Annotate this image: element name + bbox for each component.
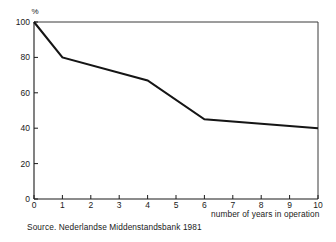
x-tick-label-1: 1 — [60, 200, 65, 210]
x-tick-label-6: 6 — [202, 200, 207, 210]
data-series-line — [34, 22, 318, 128]
y-tick-label-0: 0 — [25, 194, 30, 204]
y-tick-label-80: 80 — [21, 52, 31, 62]
x-tick-marks — [34, 195, 318, 199]
y-axis-unit-label: % — [31, 7, 38, 16]
chart-svg: 0 20 40 60 80 100 % 0 — [0, 0, 336, 242]
line-chart: 0 20 40 60 80 100 % 0 — [0, 0, 336, 242]
x-axis-title: number of years in operation — [211, 209, 319, 219]
x-tick-label-2: 2 — [88, 200, 93, 210]
y-tick-label-40: 40 — [21, 123, 31, 133]
y-tick-label-60: 60 — [21, 88, 31, 98]
x-tick-label-5: 5 — [174, 200, 179, 210]
chart-page: 0 20 40 60 80 100 % 0 — [0, 0, 336, 242]
source-note: Source. Nederlandse Middenstandsbank 198… — [27, 222, 202, 232]
x-tick-label-4: 4 — [145, 200, 150, 210]
x-tick-label-0: 0 — [32, 200, 37, 210]
y-tick-marks — [34, 22, 38, 199]
y-tick-label-20: 20 — [21, 159, 31, 169]
plot-frame — [34, 22, 318, 199]
y-tick-label-100: 100 — [16, 17, 30, 27]
x-tick-label-3: 3 — [117, 200, 122, 210]
